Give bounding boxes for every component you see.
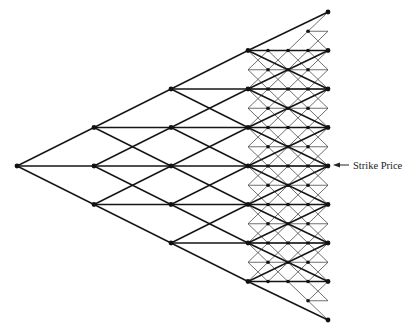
coarse-node <box>246 48 251 53</box>
fine-node <box>266 106 270 110</box>
fine-node <box>306 299 310 303</box>
fine-node <box>286 203 290 207</box>
fine-node <box>286 280 290 284</box>
fine-node <box>286 68 290 72</box>
coarse-node <box>92 125 97 130</box>
coarse-node <box>169 164 174 169</box>
fine-node <box>286 106 290 110</box>
fine-node <box>306 164 310 168</box>
fine-edge <box>308 301 328 320</box>
fine-node <box>266 280 270 284</box>
coarse-node <box>246 241 251 246</box>
coarse-node <box>326 202 331 207</box>
coarse-node <box>169 125 174 130</box>
fine-node <box>266 49 270 53</box>
coarse-edge <box>171 243 248 282</box>
fine-node <box>266 203 270 207</box>
coarse-node <box>92 164 97 169</box>
fine-node <box>286 222 290 226</box>
coarse-edge <box>17 128 94 167</box>
fine-node <box>266 241 270 245</box>
coarse-node <box>169 202 174 207</box>
coarse-node <box>246 125 251 130</box>
fine-node <box>266 145 270 149</box>
fine-node <box>286 126 290 130</box>
fine-node <box>306 126 310 130</box>
coarse-node <box>326 10 331 15</box>
fine-node <box>266 260 270 264</box>
fine-node <box>306 222 310 226</box>
fine-node <box>286 260 290 264</box>
fine-node <box>306 203 310 207</box>
strike-price-label: Strike Price <box>353 160 403 171</box>
coarse-node <box>326 318 331 323</box>
strike-price-annotation: Strike Price <box>333 160 403 171</box>
fine-node <box>286 241 290 245</box>
fine-node <box>266 126 270 130</box>
fine-node <box>266 87 270 91</box>
coarse-edge <box>171 51 248 90</box>
coarse-node <box>326 125 331 130</box>
coarse-node <box>326 87 331 92</box>
coarse-node <box>326 241 331 246</box>
coarse-node <box>326 164 331 169</box>
coarse-node <box>15 164 20 169</box>
fine-node <box>306 260 310 264</box>
coarse-edge <box>94 205 171 244</box>
fine-node <box>306 280 310 284</box>
coarse-edge <box>94 89 171 128</box>
fine-node <box>286 145 290 149</box>
coarse-node <box>169 87 174 92</box>
fine-edge <box>288 31 308 50</box>
coarse-node <box>246 164 251 169</box>
coarse-node <box>326 279 331 284</box>
fine-node <box>306 241 310 245</box>
fine-node <box>306 106 310 110</box>
fine-node <box>286 87 290 91</box>
trinomial-tree-diagram: Strike Price <box>0 0 416 333</box>
arrow-head-icon <box>333 163 340 168</box>
diagram-canvas: Strike Price <box>0 0 416 333</box>
fine-edge <box>288 282 308 301</box>
coarse-edge <box>17 166 94 205</box>
coarse-node <box>92 202 97 207</box>
fine-node <box>266 164 270 168</box>
fine-node <box>306 29 310 33</box>
fine-node <box>266 222 270 226</box>
fine-node <box>286 183 290 187</box>
fine-node <box>286 164 290 168</box>
coarse-node <box>326 48 331 53</box>
fine-node <box>306 145 310 149</box>
fine-node <box>266 68 270 72</box>
coarse-node <box>246 202 251 207</box>
fine-node <box>286 49 290 53</box>
fine-node <box>306 49 310 53</box>
fine-node <box>266 183 270 187</box>
fine-edge <box>308 12 328 31</box>
coarse-node <box>169 241 174 246</box>
fine-node <box>306 87 310 91</box>
coarse-node <box>246 87 251 92</box>
coarse-node <box>246 279 251 284</box>
fine-node <box>306 183 310 187</box>
fine-node <box>306 68 310 72</box>
